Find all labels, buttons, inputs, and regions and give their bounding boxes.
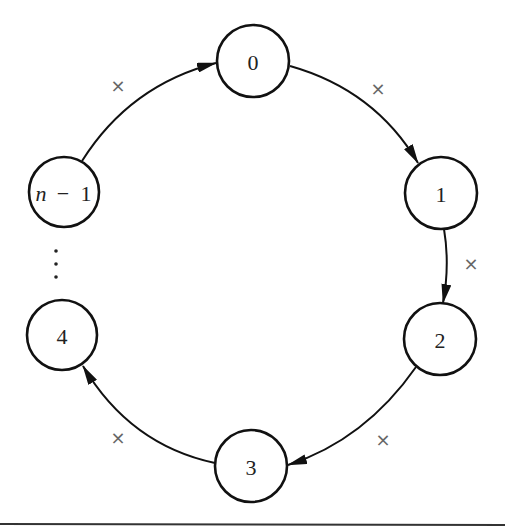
- node-n-minus-1-var: n: [36, 181, 47, 206]
- edge-0-to-1: [290, 66, 418, 163]
- vertical-ellipsis: [54, 249, 58, 279]
- node-2: 2: [404, 303, 476, 375]
- node-n-minus-1-num: 1: [81, 181, 92, 206]
- node-1: 1: [405, 157, 477, 229]
- bottom-rule: [0, 524, 505, 525]
- node-2-label: 2: [435, 328, 446, 353]
- node-0: 0: [217, 25, 289, 97]
- edge-n-1-to-0: [82, 63, 216, 161]
- cross-mark-0-1: ×: [370, 78, 385, 99]
- node-n-minus-1-op: −: [57, 181, 69, 206]
- edge-1-to-2: [443, 229, 447, 303]
- node-4: 4: [27, 300, 97, 370]
- cross-mark-n-1-0: ×: [110, 75, 125, 96]
- cross-mark-2-3: ×: [375, 429, 390, 450]
- node-3: 3: [215, 430, 287, 502]
- node-0-label: 0: [248, 50, 259, 75]
- node-3-label: 3: [246, 455, 257, 480]
- node-n-minus-1: n − 1: [29, 157, 99, 227]
- node-4-label: 4: [57, 324, 68, 349]
- cross-mark-3-4: ×: [110, 427, 125, 448]
- edge-3-to-4: [83, 366, 215, 463]
- node-1-label: 1: [436, 182, 447, 207]
- ring-diagram: × × × × × 0 1 2 3 4 n − 1: [0, 0, 505, 530]
- cross-mark-1-2: ×: [463, 253, 478, 274]
- edge-2-to-3: [288, 367, 416, 465]
